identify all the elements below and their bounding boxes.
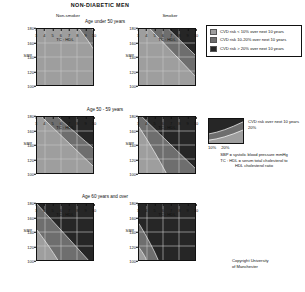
column-header-smoker: Smoker	[140, 13, 200, 18]
x-tick-mark	[196, 29, 197, 31]
y-tick-mark	[136, 261, 138, 262]
key-percent-low: 10%	[208, 145, 216, 150]
x-tick-mark	[163, 204, 164, 206]
y-tick-mark	[34, 86, 36, 87]
y-tick-mark	[136, 130, 138, 131]
y-tick-mark	[136, 57, 138, 58]
y-tick-mark	[34, 246, 36, 247]
risk-legend: CVD risk < 10% over next 10 years CVD ri…	[206, 25, 302, 57]
y-tick-mark	[136, 246, 138, 247]
y-tick-label: 180	[27, 114, 34, 119]
x-tick-mark	[36, 204, 37, 206]
copyright-line2: of Manchester	[232, 264, 302, 270]
key-caption: CVD risk over next 10 years 20%	[248, 119, 300, 130]
x-tick-mark	[36, 117, 37, 119]
x-tick-mark	[52, 29, 53, 31]
y-tick-label: 160	[129, 128, 136, 133]
x-tick-mark	[85, 204, 86, 206]
y-axis-label: SBP	[12, 228, 32, 233]
y-tick-mark	[34, 42, 36, 43]
y-tick-label: 100	[27, 84, 34, 89]
y-tick-label: 180	[129, 114, 136, 119]
x-tick-mark	[138, 29, 139, 31]
x-tick-mark	[94, 29, 95, 31]
x-tick-mark	[44, 204, 45, 206]
x-tick-mark	[44, 29, 45, 31]
x-axis-label: TC : HDL	[36, 212, 94, 217]
y-tick-label: 120	[129, 244, 136, 249]
y-tick-label: 100	[129, 172, 136, 177]
y-axis-label: SBP	[114, 228, 134, 233]
page-title: NON-DIABETIC MEN	[0, 2, 200, 8]
x-tick-mark	[61, 117, 62, 119]
y-tick-label: 120	[27, 69, 34, 74]
legend-swatch-low-icon	[210, 29, 217, 35]
x-tick-mark	[179, 204, 180, 206]
abbreviation-definitions: SBP = systolic blood pressure mmHg TC : …	[205, 152, 303, 169]
x-tick-mark	[187, 29, 188, 31]
x-tick-mark	[77, 29, 78, 31]
y-tick-label: 100	[129, 84, 136, 89]
y-tick-mark	[34, 232, 36, 233]
y-tick-label: 160	[27, 40, 34, 45]
x-axis-label: TC : HDL	[36, 37, 94, 42]
y-tick-mark	[136, 217, 138, 218]
x-tick-mark	[154, 204, 155, 206]
copyright-notice: Copyright University of Manchester	[232, 258, 302, 269]
x-tick-mark	[171, 204, 172, 206]
x-tick-mark	[163, 29, 164, 31]
y-tick-label: 120	[27, 157, 34, 162]
legend-item-mid: CVD risk 10-20% over next 10 years	[210, 37, 299, 43]
key-caption-line1: CVD risk over next 10 years	[248, 119, 300, 125]
definition-tchdl-line2: HDL cholesterol ratio	[205, 163, 303, 169]
legend-label-low: CVD risk < 10% over next 10 years	[220, 30, 284, 34]
y-tick-mark	[34, 217, 36, 218]
y-tick-label: 180	[27, 26, 34, 31]
y-tick-label: 160	[27, 128, 34, 133]
x-tick-mark	[36, 29, 37, 31]
x-tick-mark	[69, 204, 70, 206]
x-tick-mark	[179, 117, 180, 119]
x-tick-mark	[94, 204, 95, 206]
y-tick-mark	[34, 130, 36, 131]
legend-swatch-high-icon	[210, 46, 217, 52]
y-tick-mark	[136, 86, 138, 87]
x-tick-mark	[61, 29, 62, 31]
key-percent-labels: 10% 20%	[208, 145, 248, 150]
x-tick-mark	[154, 117, 155, 119]
key-swatch-diagram-icon	[208, 118, 244, 144]
y-tick-mark	[34, 71, 36, 72]
legend-label-high: CVD risk > 20% over next 10 years	[220, 47, 284, 51]
x-tick-mark	[146, 204, 147, 206]
y-tick-label: 120	[129, 157, 136, 162]
x-tick-mark	[52, 117, 53, 119]
y-tick-mark	[34, 174, 36, 175]
y-tick-mark	[34, 159, 36, 160]
column-header-non-smoker: Non-smoker	[38, 13, 98, 18]
y-tick-label: 100	[27, 259, 34, 264]
y-tick-mark	[34, 57, 36, 58]
x-tick-mark	[138, 204, 139, 206]
x-axis-label: TC : HDL	[138, 37, 196, 42]
row-title-age-under-50: Age under 50 years	[45, 19, 165, 24]
x-tick-mark	[171, 117, 172, 119]
y-tick-mark	[136, 232, 138, 233]
y-axis-label: SBP	[114, 141, 134, 146]
x-tick-mark	[69, 117, 70, 119]
x-axis-label: TC : HDL	[138, 125, 196, 130]
x-tick-mark	[61, 204, 62, 206]
y-tick-label: 160	[27, 215, 34, 220]
key-percent-high: 20%	[221, 145, 229, 150]
y-axis-label: SBP	[12, 53, 32, 58]
x-tick-mark	[146, 117, 147, 119]
y-tick-label: 180	[129, 26, 136, 31]
y-tick-label: 160	[129, 215, 136, 220]
y-tick-label: 120	[27, 244, 34, 249]
x-axis-label: TC : HDL	[138, 212, 196, 217]
x-tick-mark	[187, 204, 188, 206]
x-tick-mark	[196, 117, 197, 119]
y-tick-label: 180	[27, 201, 34, 206]
legend-label-mid: CVD risk 10-20% over next 10 years	[220, 38, 286, 42]
y-axis-label: SBP	[12, 141, 32, 146]
y-tick-label: 180	[129, 201, 136, 206]
